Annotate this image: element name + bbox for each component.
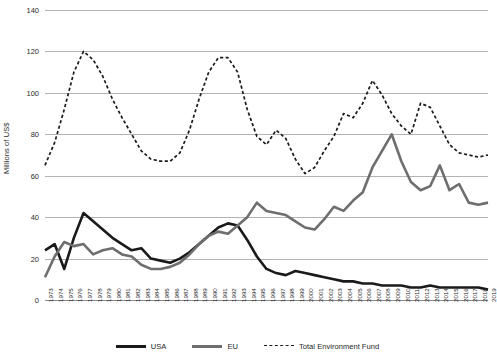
x-tick-label: 2012 [423,288,430,302]
y-tick-label: 140 [15,6,39,15]
x-axis-ticks: 1973197419751976197719781979198019811982… [45,302,488,336]
y-axis-title: Millions of US$ [2,98,11,112]
x-tick-label: 2002 [327,288,334,302]
series-line-usa [45,213,488,290]
x-tick-label: 1979 [105,288,112,302]
series-line-total-environment-fund [45,51,488,173]
x-tick-label: 2000 [307,288,314,302]
x-tick-label: 1997 [279,288,286,302]
plot-area [45,10,488,300]
x-tick-label: 1994 [250,288,257,302]
x-tick-label: 1976 [76,288,83,302]
x-tick-label: 2019 [490,288,497,302]
x-tick-label: 1977 [86,288,93,302]
x-tick-label: 1984 [153,288,160,302]
x-tick-label: 1988 [192,288,199,302]
x-tick-label: 1980 [115,288,122,302]
legend-item-total-environment-fund: Total Environment Fund [264,341,379,351]
chart-legend: USA EU Total Environment Fund [0,338,495,354]
x-tick-label: 2006 [365,288,372,302]
y-tick-label: 40 [15,213,39,222]
x-tick-label: 1985 [163,288,170,302]
y-tick-label: 120 [15,47,39,56]
legend-item-usa: USA [116,341,167,351]
x-tick-label: 1995 [259,288,266,302]
y-axis-title-label: Millions of US$ [2,160,11,174]
x-tick-label: 1999 [298,288,305,302]
x-tick-label: 2016 [462,288,469,302]
x-tick-label: 1996 [269,288,276,302]
x-tick-label: 1986 [173,288,180,302]
x-tick-label: 2018 [481,288,488,302]
x-tick-label: 2017 [471,288,478,302]
series-layer [45,10,488,300]
x-tick-label: 1992 [230,288,237,302]
x-tick-label: 2008 [384,288,391,302]
x-tick-label: 1981 [124,288,131,302]
x-tick-label: 2015 [452,288,459,302]
x-tick-label: 2013 [433,288,440,302]
x-tick-label: 1978 [96,288,103,302]
x-tick-label: 2011 [413,289,420,302]
x-tick-label: 1987 [182,288,189,302]
x-tick-label: 1989 [201,288,208,302]
series-line-eu [45,134,488,277]
legend-swatch-usa-icon [116,341,146,351]
x-tick-label: 2009 [394,288,401,302]
x-tick-label: 1982 [134,288,141,302]
legend-swatch-eu-icon [192,341,222,351]
x-tick-label: 2004 [346,288,353,302]
y-tick-label: 60 [15,172,39,181]
legend-item-eu: EU [192,341,238,351]
legend-label-eu: EU [227,342,238,351]
y-tick-label: 100 [15,89,39,98]
y-tick-label: 20 [15,255,39,264]
x-tick-label: 2005 [356,288,363,302]
x-tick-label: 2014 [442,288,449,302]
x-tick-label: 1993 [240,288,247,302]
y-tick-label: 0 [15,296,39,305]
x-tick-label: 1975 [67,288,74,302]
x-tick-label: 2003 [336,288,343,302]
y-tick-label: 80 [15,130,39,139]
x-tick-label: 1974 [57,288,64,302]
legend-label-usa: USA [151,342,167,351]
legend-label-total-environment-fund: Total Environment Fund [299,342,379,351]
x-tick-label: 1991 [221,288,228,302]
x-tick-label: 1973 [47,288,54,302]
x-tick-label: 1998 [288,288,295,302]
x-tick-label: 1983 [144,288,151,302]
x-tick-label: 2010 [404,288,411,302]
x-tick-label: 2007 [375,288,382,302]
x-tick-label: 2001 [317,288,324,302]
legend-swatch-total-environment-fund-icon [264,341,294,351]
x-tick-label: 1990 [211,288,218,302]
